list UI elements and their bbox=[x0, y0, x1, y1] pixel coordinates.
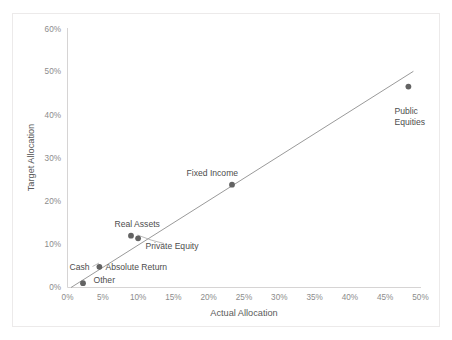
y-tick-label-0: 0% bbox=[49, 283, 61, 292]
point-label-cash: Cash bbox=[69, 262, 89, 272]
x-tick-label-40: 40% bbox=[342, 293, 358, 302]
y-tick-label-50: 50% bbox=[45, 67, 61, 76]
x-tick-label-5: 5% bbox=[97, 293, 109, 302]
point-label-public-equities-line1: Public bbox=[395, 106, 419, 116]
data-point-other[interactable] bbox=[80, 280, 86, 286]
x-axis-title: Actual Allocation bbox=[210, 308, 277, 318]
data-point-real-assets[interactable] bbox=[128, 233, 134, 239]
data-point-fixed-income[interactable] bbox=[229, 182, 235, 188]
y-tick-label-40: 40% bbox=[45, 111, 61, 120]
point-label-other: Other bbox=[94, 275, 116, 285]
x-tick-label-10: 10% bbox=[130, 293, 146, 302]
y-tick-label-30: 30% bbox=[45, 154, 61, 163]
point-label-absolute-return: Absolute Return bbox=[106, 262, 168, 272]
y-tick-label-20: 20% bbox=[45, 197, 61, 206]
data-point-public-equities[interactable] bbox=[406, 84, 412, 90]
point-label-private-equity: Private Equity bbox=[146, 241, 200, 251]
y-tick-label-60: 60% bbox=[45, 25, 61, 34]
x-tick-label-35: 35% bbox=[306, 293, 322, 302]
trend-line bbox=[71, 71, 413, 287]
point-label-public-equities-line2: Equities bbox=[395, 117, 426, 127]
y-tick-label-10: 10% bbox=[45, 240, 61, 249]
x-tick-label-45: 45% bbox=[377, 293, 393, 302]
x-tick-label-30: 30% bbox=[271, 293, 287, 302]
scatter-chart: 60% 50% 40% 30% 20% 10% 0% 0% 5% 10% 15%… bbox=[0, 0, 452, 340]
y-axis-title: Target Allocation bbox=[26, 124, 36, 191]
point-label-fixed-income: Fixed Income bbox=[187, 168, 239, 178]
x-tick-label-0: 0% bbox=[62, 293, 74, 302]
x-tick-label-25: 25% bbox=[236, 293, 252, 302]
data-point-absolute-return[interactable] bbox=[97, 264, 103, 270]
x-tick-label-15: 15% bbox=[165, 293, 181, 302]
point-label-real-assets: Real Assets bbox=[115, 219, 160, 229]
data-point-private-equity[interactable] bbox=[135, 235, 141, 241]
x-tick-label-50: 50% bbox=[412, 293, 428, 302]
chart-figure: 60% 50% 40% 30% 20% 10% 0% 0% 5% 10% 15%… bbox=[0, 0, 452, 340]
x-tick-label-20: 20% bbox=[201, 293, 217, 302]
